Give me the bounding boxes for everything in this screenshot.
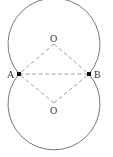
label-a: A (7, 69, 15, 80)
radius-top-b (54, 44, 89, 74)
point-b-marker (87, 72, 91, 76)
label-center-bottom: O (50, 105, 57, 116)
radius-top-a (19, 44, 54, 74)
label-center-top: O (50, 33, 57, 44)
label-b: B (94, 69, 101, 80)
radius-bottom-b (54, 74, 89, 103)
two-circles-diagram: A B O O (0, 0, 113, 157)
point-a-marker (17, 72, 21, 76)
radius-bottom-a (19, 74, 54, 103)
